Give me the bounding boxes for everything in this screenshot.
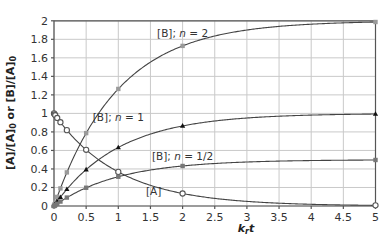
data-point-circle — [373, 203, 378, 208]
x-tick-labels: 00.511.522.533.544.55 — [51, 211, 380, 224]
data-point-square — [373, 158, 377, 162]
data-point-circle — [84, 147, 89, 152]
kinetics-chart: 00.511.522.533.544.55 00.20.40.60.811.21… — [0, 0, 388, 250]
y-tick-label: 0 — [41, 200, 48, 213]
curve-annotation: [B]; n = 1 — [93, 111, 144, 123]
y-tick-label: 0.8 — [31, 126, 49, 139]
y-tick-label: 1.8 — [31, 33, 49, 46]
data-point-square — [116, 87, 120, 91]
y-tick-label: 1.4 — [31, 70, 49, 83]
x-tick-label: 0 — [51, 211, 58, 224]
y-tick-label: 2 — [41, 15, 48, 28]
y-tick-labels: 00.20.40.60.811.21.41.61.82 — [31, 15, 49, 213]
x-tick-label: 3.5 — [270, 211, 288, 224]
x-tick-label: 0.5 — [77, 211, 95, 224]
x-tick-label: 1.5 — [142, 211, 160, 224]
x-tick-label: 2.5 — [206, 211, 224, 224]
y-tick-label: 1 — [41, 107, 48, 120]
curve-annotation: [B]; n = 1/2 — [152, 150, 213, 162]
data-point-square — [84, 186, 88, 190]
y-tick-label: 0.6 — [31, 144, 49, 157]
curve-annotation: [B]; n = 2 — [157, 27, 208, 39]
y-tick-label: 1.6 — [31, 52, 49, 65]
data-point-square — [65, 195, 69, 199]
x-axis-label: krt — [238, 222, 255, 236]
data-point-square — [180, 164, 184, 168]
curve-annotation: [A] — [146, 185, 161, 197]
data-point-circle — [180, 191, 185, 196]
x-tick-label: 1 — [115, 211, 122, 224]
data-point-circle — [64, 128, 69, 133]
y-tick-label: 0.4 — [31, 163, 49, 176]
y-axis-label: [A]/[A]0 or [B]/[A]0 — [4, 56, 18, 170]
data-point-circle — [116, 169, 121, 174]
data-point-square — [180, 44, 184, 48]
x-tick-label: 2 — [179, 211, 186, 224]
x-tick-label: 5 — [372, 211, 379, 224]
curve-annotations: [B]; n = 2[B]; n = 1[B]; n = 1/2[A] — [93, 27, 214, 196]
x-tick-label: 4 — [308, 211, 315, 224]
y-tick-label: 1.2 — [31, 89, 49, 102]
x-tick-label: 4.5 — [335, 211, 353, 224]
data-point-square — [65, 170, 69, 174]
y-tick-label: 0.2 — [31, 181, 49, 194]
data-point-square — [373, 20, 377, 24]
data-point-square — [84, 131, 88, 135]
data-point-circle — [58, 120, 63, 125]
data-point-square — [58, 199, 62, 203]
data-point-square — [116, 175, 120, 179]
data-point-square — [58, 186, 62, 190]
